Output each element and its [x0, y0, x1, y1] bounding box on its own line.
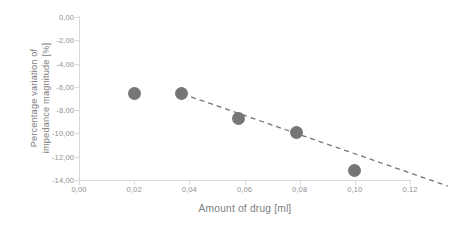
- y-tick-label: -8,00: [16, 106, 74, 115]
- x-axis-title: Amount of drug [ml]: [79, 203, 411, 214]
- y-tick-label: -6,00: [16, 82, 74, 91]
- y-tick-label: -2,00: [16, 36, 74, 45]
- x-tick-label: 0,04: [169, 185, 209, 194]
- x-tick-label: 0,10: [335, 185, 375, 194]
- x-tick-label: 0,00: [59, 185, 99, 194]
- y-tick-label: -14,00: [16, 176, 74, 185]
- data-point: [128, 87, 141, 100]
- data-point: [232, 112, 245, 125]
- x-tick-label: 0,06: [225, 185, 265, 194]
- y-tick-label: -4,00: [16, 59, 74, 68]
- plot-area: [79, 17, 410, 180]
- y-tick-label: -10,00: [16, 129, 74, 138]
- y-tick-label: -12,00: [16, 152, 74, 161]
- data-point: [175, 87, 188, 100]
- x-tick-label: 0,02: [114, 185, 154, 194]
- data-point: [290, 126, 303, 139]
- data-point: [348, 164, 361, 177]
- y-tick-label: 0,00: [16, 13, 74, 22]
- x-tick-label: 0,08: [280, 185, 320, 194]
- y-axis-title: Percentage variation of impedance magnit…: [18, 0, 62, 196]
- x-tick-label: 0,12: [390, 185, 430, 194]
